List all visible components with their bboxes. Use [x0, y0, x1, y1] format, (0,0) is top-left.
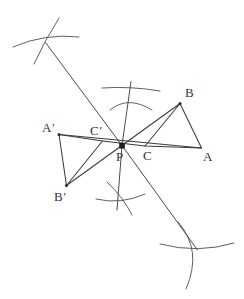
point-label-b-text: B: [185, 85, 194, 100]
geometry-figure: A B C P A′ B′ C′: [0, 0, 244, 299]
point-label-a: A: [203, 150, 212, 163]
arc-upper-centre-shallow: [102, 87, 160, 91]
line-a-prime-p-a: [59, 135, 202, 149]
point-label-c-text: C: [143, 148, 152, 163]
arc-cluster-group: [13, 18, 234, 289]
triangle-abc: [145, 104, 202, 149]
ray-p-to-lower-right-arc: [122, 146, 198, 251]
prime-mark-c: ′: [99, 124, 102, 138]
arc-upper-left-steep: [34, 18, 59, 64]
point-label-c-prime: C′: [90, 124, 101, 137]
triangle-a-prime-b-prime-c-prime: [59, 135, 103, 186]
centre-point-p-marker: [120, 143, 125, 148]
point-label-c-prime-text: C: [90, 123, 99, 138]
ray-p-to-upper-left-arc: [46, 43, 123, 146]
point-label-p: P: [116, 150, 123, 163]
vertex-dot-b: [178, 102, 181, 105]
arc-lower-right-shallow: [160, 243, 234, 249]
vertex-dot-a-prime: [58, 133, 61, 136]
point-label-a-prime: A′: [42, 121, 54, 134]
point-label-b: B: [185, 86, 194, 99]
vertex-dot-b-prime: [65, 184, 68, 187]
point-label-c: C: [143, 149, 152, 162]
prime-mark-a: ′: [51, 121, 54, 135]
point-label-b-prime: B′: [54, 190, 65, 203]
ray-p-to-upper-arc: [122, 82, 131, 146]
correspondence-line-group: [59, 104, 202, 186]
point-label-p-text: P: [116, 149, 123, 164]
prime-mark-b: ′: [63, 190, 66, 204]
arc-lower-right-steep: [178, 222, 193, 289]
point-label-b-prime-text: B: [54, 189, 63, 204]
point-label-a-prime-text: A: [42, 120, 51, 135]
arc-lower-centre-steep: [107, 182, 132, 215]
arc-upper-left-shallow: [13, 36, 79, 47]
arc-lower-centre-shallow: [96, 194, 145, 201]
arc-upper-centre-vee: [110, 103, 152, 111]
point-label-a-text: A: [203, 149, 212, 164]
